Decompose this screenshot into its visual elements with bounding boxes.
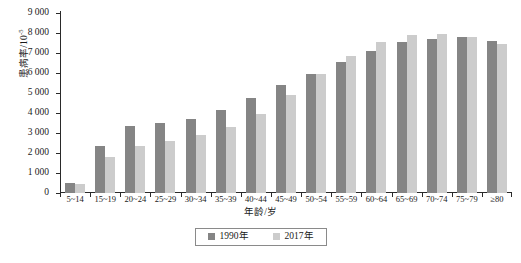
bar-series2: [226, 127, 236, 193]
x-axis-tick-label: 35~39: [211, 195, 241, 204]
legend-swatch-icon: [273, 233, 280, 240]
bar-series2: [75, 184, 85, 193]
plot-area: 01 0002 0003 0004 0005 0006 0007 0008 00…: [60, 13, 512, 193]
bar-series1: [246, 98, 256, 193]
bar-group: [241, 13, 271, 193]
bar-series2: [165, 141, 175, 193]
bar-series1: [276, 85, 286, 193]
bar-group: [90, 13, 120, 193]
bar-series2: [437, 34, 447, 193]
bar-group: [422, 13, 452, 193]
bar-series1: [306, 74, 316, 193]
y-axis-tick-label: 7 000: [3, 48, 49, 58]
bar-series1: [336, 62, 346, 193]
bar-series2: [135, 146, 145, 193]
x-axis-tick-label: 15~19: [90, 195, 120, 204]
bar-group: [482, 13, 512, 193]
bar-group: [361, 13, 391, 193]
bar-series2: [196, 135, 206, 193]
x-axis-tick-label: 25~29: [150, 195, 180, 204]
bar-series2: [346, 56, 356, 193]
bar-series1: [487, 41, 497, 193]
x-axis-tick-labels: 5~1415~1920~2425~2930~3435~3940~4445~495…: [60, 195, 512, 204]
legend-item[interactable]: 1990年: [208, 232, 249, 242]
legend-swatch-icon: [208, 233, 215, 240]
x-axis-tick-label: 55~59: [331, 195, 361, 204]
x-axis-tick-label: 45~49: [271, 195, 301, 204]
x-axis-tick-label: 30~34: [181, 195, 211, 204]
y-axis-tick-label: 8 000: [3, 28, 49, 38]
bars-layer: [60, 13, 512, 193]
bar-group: [392, 13, 422, 193]
chart-legend: 1990年2017年: [195, 228, 327, 246]
bar-group: [452, 13, 482, 193]
x-axis-title: 年龄/岁: [0, 208, 521, 218]
bar-series1: [397, 42, 407, 193]
bar-group: [301, 13, 331, 193]
x-axis-tick-label: 60~64: [361, 195, 391, 204]
y-axis-tick-label: 9 000: [3, 8, 49, 18]
bar-series2: [497, 44, 507, 193]
x-axis-tick-label: 40~44: [241, 195, 271, 204]
bar-series1: [65, 183, 75, 193]
bar-series1: [366, 51, 376, 193]
bar-series1: [457, 37, 467, 193]
x-axis-tick-label: 65~69: [392, 195, 422, 204]
bar-series2: [316, 74, 326, 193]
y-axis-tick-label: 3 000: [3, 128, 49, 138]
y-axis-tick-label: 1 000: [3, 168, 49, 178]
x-axis-tick-label: 75~79: [452, 195, 482, 204]
legend-label: 2017年: [285, 232, 314, 242]
bar-series1: [125, 126, 135, 193]
bar-series1: [427, 39, 437, 193]
bar-series1: [216, 110, 226, 193]
bar-series2: [256, 114, 266, 193]
x-axis-tick-label: 5~14: [60, 195, 90, 204]
bar-group: [150, 13, 180, 193]
x-axis-tick-label: 20~24: [120, 195, 150, 204]
bar-series1: [186, 119, 196, 193]
bar-series2: [376, 42, 386, 193]
y-axis-tick-label: 0: [3, 188, 49, 198]
prevalence-bar-chart: 患病率/10-5 01 0002 0003 0004 0005 0006 000…: [0, 0, 521, 263]
bar-series1: [155, 123, 165, 193]
x-axis-tick-label: ≥80: [482, 195, 512, 204]
bar-series2: [286, 95, 296, 193]
x-axis-tick-label: 50~54: [301, 195, 331, 204]
bar-group: [120, 13, 150, 193]
legend-item[interactable]: 2017年: [273, 232, 314, 242]
bar-series2: [105, 157, 115, 193]
bar-series2: [467, 37, 477, 193]
y-axis-tick-label: 6 000: [3, 68, 49, 78]
bar-group: [181, 13, 211, 193]
bar-group: [211, 13, 241, 193]
bar-series1: [95, 146, 105, 193]
bar-group: [331, 13, 361, 193]
bar-group: [60, 13, 90, 193]
legend-label: 1990年: [220, 232, 249, 242]
x-axis-tick-label: 70~74: [422, 195, 452, 204]
y-axis-tick-label: 4 000: [3, 108, 49, 118]
y-axis-tick-label: 2 000: [3, 148, 49, 158]
bar-series2: [407, 35, 417, 193]
bar-group: [271, 13, 301, 193]
y-axis-tick-label: 5 000: [3, 88, 49, 98]
